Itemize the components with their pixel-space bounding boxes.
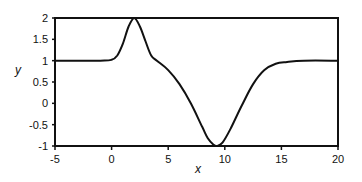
y-tick-label: -1 — [38, 140, 48, 152]
x-tick-label: 15 — [275, 153, 287, 165]
line-chart: 21.510.50-0.5-1 -505101520 y x — [0, 0, 362, 182]
x-tick-label: 10 — [219, 153, 231, 165]
x-tick-label: -5 — [50, 153, 60, 165]
x-tick-label: 0 — [109, 153, 115, 165]
y-axis-ticks: 21.510.50-0.5-1 — [29, 12, 55, 152]
plot-frame — [55, 18, 338, 146]
y-tick-label: 0.5 — [33, 76, 48, 88]
x-axis-label: x — [194, 162, 202, 176]
y-axis-label: y — [14, 63, 22, 77]
x-tick-label: 20 — [332, 153, 344, 165]
y-tick-label: -0.5 — [29, 119, 48, 131]
x-tick-label: 5 — [165, 153, 171, 165]
y-tick-label: 1 — [42, 55, 48, 67]
data-line — [55, 18, 338, 146]
y-tick-label: 2 — [42, 12, 48, 24]
y-tick-label: 0 — [42, 97, 48, 109]
y-tick-label: 1.5 — [33, 33, 48, 45]
